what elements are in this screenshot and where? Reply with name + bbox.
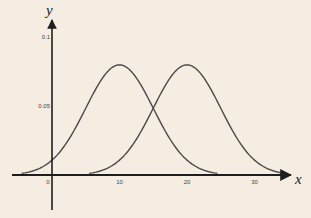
chart-canvas: 0102030 0.050.1 x y xyxy=(0,0,311,218)
x-tick-label: 20 xyxy=(184,179,191,185)
curves-layer xyxy=(22,65,285,173)
normal-curve-2 xyxy=(89,65,285,173)
x-axis-label: x xyxy=(294,171,302,187)
x-tick-label: 10 xyxy=(116,179,123,185)
x-tick-label: 30 xyxy=(251,179,258,185)
y-tick-labels: 0.050.1 xyxy=(38,34,50,109)
y-tick-label: 0.05 xyxy=(38,103,50,109)
normal-curve-1 xyxy=(22,65,218,173)
x-tick-label: 0 xyxy=(46,179,50,185)
y-axis-label: y xyxy=(44,2,53,18)
x-tick-labels: 0102030 xyxy=(46,179,258,185)
y-tick-label: 0.1 xyxy=(42,34,51,40)
